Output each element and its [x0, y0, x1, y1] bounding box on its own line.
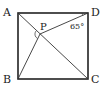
- label-c: C: [91, 73, 99, 86]
- geometry-diagram: A D B C P 65°: [0, 0, 104, 87]
- label-a: A: [2, 6, 12, 19]
- label-b: B: [3, 73, 11, 86]
- segment-pb: [18, 34, 40, 79]
- angle-label-65: 65°: [70, 22, 84, 31]
- label-d: D: [91, 6, 100, 19]
- angle-arc-p: [35, 31, 38, 39]
- label-p: P: [40, 21, 47, 32]
